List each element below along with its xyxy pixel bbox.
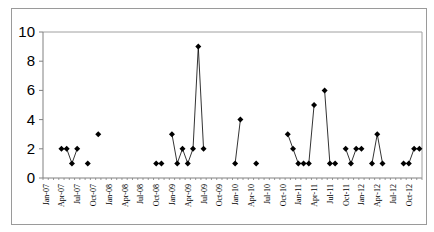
x-tick-label: Jan-07 (42, 184, 51, 205)
data-point-diamond-icon (306, 160, 312, 166)
data-point-diamond-icon (185, 160, 191, 166)
series-line (325, 90, 330, 163)
data-point-diamond-icon (343, 146, 349, 152)
x-tick-label: Oct-07 (89, 184, 98, 206)
data-point-diamond-icon (401, 160, 407, 166)
x-tick-label: Jan-08 (105, 184, 114, 205)
series-line (372, 134, 377, 163)
series-line (198, 47, 203, 149)
data-point-diamond-icon (416, 146, 422, 152)
data-point-diamond-icon (201, 146, 207, 152)
x-tick-label: Jul-11 (326, 184, 335, 204)
data-point-diamond-icon (285, 131, 291, 137)
data-point-diamond-icon (374, 131, 380, 137)
x-tick-label: Apr-07 (57, 184, 66, 207)
y-tick-label: 8 (27, 52, 35, 69)
series-line (235, 120, 240, 164)
y-tick-label: 6 (27, 81, 35, 98)
x-tick-label: Oct-12 (405, 184, 414, 206)
data-point-diamond-icon (380, 160, 386, 166)
data-point-diamond-icon (69, 160, 75, 166)
data-point-diamond-icon (295, 160, 301, 166)
x-tick-label: Jul-09 (200, 184, 209, 204)
data-point-diamond-icon (369, 160, 375, 166)
data-point-diamond-icon (190, 146, 196, 152)
data-point-diamond-icon (322, 87, 328, 93)
x-tick-label: Jul-07 (73, 184, 82, 204)
x-tick-label: Jan-11 (294, 184, 303, 205)
data-point-diamond-icon (158, 160, 164, 166)
x-tick-label: Oct-09 (215, 184, 224, 206)
data-point-diamond-icon (353, 146, 359, 152)
data-point-diamond-icon (411, 146, 417, 152)
y-tick-label: 2 (27, 140, 35, 157)
data-point-diamond-icon (85, 160, 91, 166)
data-point-diamond-icon (169, 131, 175, 137)
data-point-diamond-icon (58, 146, 64, 152)
data-point-diamond-icon (179, 146, 185, 152)
data-point-diamond-icon (311, 102, 317, 108)
x-tick-label: Jul-10 (263, 184, 272, 204)
x-tick-label: Oct-10 (279, 184, 288, 206)
x-tick-label: Jan-09 (168, 184, 177, 205)
data-point-diamond-icon (64, 146, 70, 152)
y-tick-label: 10 (18, 23, 35, 40)
x-tick-label: Jul-08 (136, 184, 145, 204)
y-tick-label: 0 (27, 169, 35, 186)
data-point-diamond-icon (290, 146, 296, 152)
x-tick-label: Jul-12 (389, 184, 398, 204)
x-tick-label: Apr-12 (373, 184, 382, 207)
x-tick-label: Apr-11 (310, 184, 319, 207)
x-tick-label: Jan-12 (357, 184, 366, 205)
x-tick-label: Jan-10 (231, 184, 240, 205)
series-line (172, 134, 177, 163)
data-point-diamond-icon (237, 117, 243, 123)
data-point-diamond-icon (74, 146, 80, 152)
series-line (377, 134, 382, 163)
x-tick-label: Apr-10 (247, 184, 256, 207)
x-tick-label: Apr-09 (184, 184, 193, 207)
x-tick-label: Oct-11 (342, 184, 351, 206)
data-point-diamond-icon (232, 160, 238, 166)
x-tick-label: Oct-08 (152, 184, 161, 206)
y-tick-label: 4 (27, 111, 35, 128)
data-point-diamond-icon (406, 160, 412, 166)
data-point-diamond-icon (95, 131, 101, 137)
data-point-diamond-icon (301, 160, 307, 166)
data-point-diamond-icon (332, 160, 338, 166)
data-point-diamond-icon (174, 160, 180, 166)
data-point-diamond-icon (348, 160, 354, 166)
x-tick-label: Apr-08 (121, 184, 130, 207)
series-line (309, 105, 314, 163)
data-point-diamond-icon (195, 44, 201, 50)
line-chart: 0246810Jan-07Apr-07Jul-07Oct-07Jan-08Apr… (0, 0, 434, 232)
data-point-diamond-icon (358, 146, 364, 152)
data-point-diamond-icon (153, 160, 159, 166)
data-point-diamond-icon (327, 160, 333, 166)
data-point-diamond-icon (253, 160, 259, 166)
series-line (193, 47, 198, 149)
